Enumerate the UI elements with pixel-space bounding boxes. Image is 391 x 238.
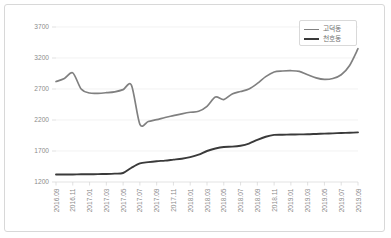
svg-text:2018.05: 2018.05 [220,188,227,212]
svg-text:2019.09: 2019.09 [355,188,362,212]
legend-item-1[interactable]: 천호동 [304,34,352,44]
svg-text:2018.01: 2018.01 [187,188,194,212]
chart-legend: 고덕동 천호동 [299,20,357,46]
svg-text:2017.01: 2017.01 [86,188,93,212]
svg-text:2018.09: 2018.09 [254,188,261,212]
svg-text:2017.07: 2017.07 [136,188,143,212]
svg-text:2019.05: 2019.05 [321,188,328,212]
legend-label-godeokdong: 고덕동 [323,24,341,34]
svg-text:2018.07: 2018.07 [237,188,244,212]
series-line-0 [56,49,358,127]
svg-text:2700: 2700 [34,85,49,92]
svg-text:2016.11: 2016.11 [69,188,76,212]
svg-text:3700: 3700 [34,23,49,30]
svg-text:2016.09: 2016.09 [53,188,60,212]
svg-text:2018.11: 2018.11 [271,188,278,212]
svg-text:1700: 1700 [34,147,49,154]
series-line-1 [56,132,358,174]
svg-text:2019.01: 2019.01 [287,188,294,212]
legend-swatch-godeokdong [304,29,319,30]
data-series-group [56,49,358,175]
legend-item-0[interactable]: 고덕동 [304,24,352,34]
x-axis-tick-labels: 2016.092016.112017.012017.032017.052017.… [53,188,362,212]
svg-text:2019.03: 2019.03 [304,188,311,212]
legend-label-cheonhodong: 천호동 [323,34,341,44]
legend-swatch-cheonhodong [304,38,319,40]
y-axis-tick-labels: 120017002200270032003700 [34,23,49,185]
chart-card: 120017002200270032003700 2016.092016.112… [4,4,385,232]
svg-text:3200: 3200 [34,54,49,61]
svg-text:1200: 1200 [34,178,49,185]
svg-text:2019.07: 2019.07 [338,188,345,212]
svg-text:2017.09: 2017.09 [153,188,160,212]
svg-text:2017.03: 2017.03 [103,188,110,212]
svg-text:2017.11: 2017.11 [170,188,177,212]
gridlines-group [52,27,358,182]
svg-text:2017.05: 2017.05 [120,188,127,212]
svg-text:2200: 2200 [34,116,49,123]
svg-text:2018.03: 2018.03 [204,188,211,212]
x-axis-tick-marks [56,182,358,186]
